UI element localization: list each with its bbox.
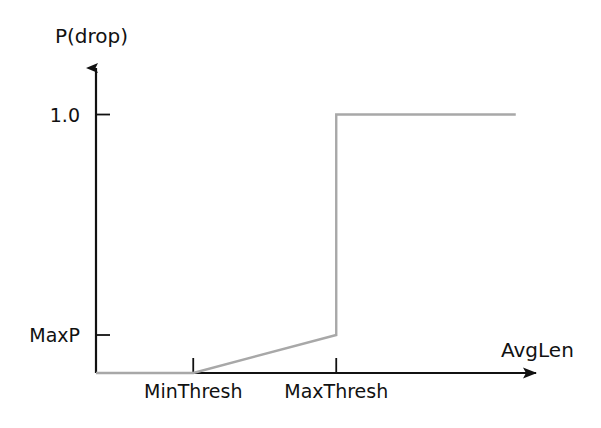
plot-area	[0, 0, 601, 428]
y-tick-label-1-0: 1.0	[50, 106, 80, 125]
y-tick-label-maxp: MaxP	[29, 326, 80, 345]
drop-probability-curve	[96, 115, 516, 373]
chart-container: P(drop) AvgLen 1.0 MaxP MinThresh MaxThr…	[0, 0, 601, 428]
x-axis-title: AvgLen	[501, 340, 574, 360]
y-axis-title: P(drop)	[55, 26, 128, 46]
x-tick-label-maxthresh: MaxThresh	[284, 382, 388, 401]
x-tick-label-minthresh: MinThresh	[144, 382, 242, 401]
